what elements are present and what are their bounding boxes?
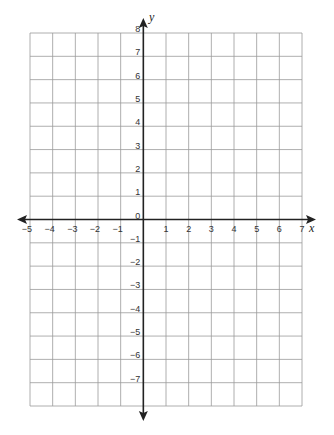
y-tick-label: −7 (130, 374, 140, 384)
y-tick-labels: 876543210−1−2−3−4−5−6−7 (130, 24, 140, 384)
y-tick-label: −4 (130, 304, 140, 314)
coordinate-plane: −5−4−3−2−11234567 876543210−1−2−3−4−5−6−… (0, 0, 334, 435)
x-tick-label: 4 (231, 224, 236, 234)
y-tick-label: 4 (135, 117, 140, 127)
x-tick-label: 5 (254, 224, 259, 234)
x-tick-label: −4 (45, 224, 55, 234)
x-tick-label: 6 (277, 224, 282, 234)
y-tick-label: 8 (135, 24, 140, 34)
x-axis-label: x (308, 221, 315, 235)
y-tick-label: 5 (135, 94, 140, 104)
axes (17, 18, 316, 421)
y-tick-label: −1 (130, 234, 140, 244)
x-tick-label: 7 (299, 224, 304, 234)
y-tick-label: 1 (135, 187, 140, 197)
x-tick-label: 2 (186, 224, 191, 234)
y-tick-label: 7 (135, 47, 140, 57)
y-tick-label: −5 (130, 327, 140, 337)
y-axis-label: y (148, 10, 155, 24)
y-tick-label: 6 (135, 71, 140, 81)
y-tick-label: −2 (130, 257, 140, 267)
x-tick-label: 3 (209, 224, 214, 234)
y-tick-label: 0 (135, 211, 140, 221)
x-tick-label: −3 (67, 224, 77, 234)
x-tick-label: −1 (113, 224, 123, 234)
x-tick-label: 1 (163, 224, 168, 234)
x-tick-labels: −5−4−3−2−11234567 (22, 224, 305, 234)
x-tick-label: −2 (90, 224, 100, 234)
y-tick-label: 2 (135, 164, 140, 174)
y-tick-label: 3 (135, 141, 140, 151)
y-tick-label: −6 (130, 350, 140, 360)
y-tick-label: −3 (130, 280, 140, 290)
x-tick-label: −5 (22, 224, 32, 234)
